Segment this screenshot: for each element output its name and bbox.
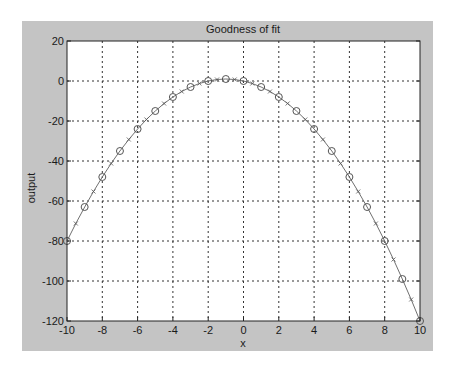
x-tick-label: 2 xyxy=(276,324,282,336)
chart-title: Goodness of fit xyxy=(206,23,280,35)
x-tick-label: 6 xyxy=(346,324,352,336)
y-tick-label: 0 xyxy=(58,75,64,87)
y-axis-label: output xyxy=(25,173,37,204)
y-tick-label: -20 xyxy=(48,115,64,127)
y-tick-label: -120 xyxy=(42,315,64,327)
x-tick-label: -8 xyxy=(97,324,107,336)
y-tick-label: -80 xyxy=(48,235,64,247)
x-tick-label: 10 xyxy=(414,324,426,336)
x-tick-label: 8 xyxy=(382,324,388,336)
x-tick-label: -4 xyxy=(168,324,178,336)
plot-canvas: Goodness of fit x output -10-8-6-4-20246… xyxy=(0,0,451,374)
x-tick-label: -2 xyxy=(203,324,213,336)
y-tick-label: -60 xyxy=(48,195,64,207)
x-tick-label: 4 xyxy=(311,324,317,336)
y-tick-label: -40 xyxy=(48,155,64,167)
y-tick-label: 20 xyxy=(52,35,64,47)
y-tick-label: -100 xyxy=(42,275,64,287)
x-tick-label: -6 xyxy=(133,324,143,336)
x-tick-label: 0 xyxy=(240,324,246,336)
x-axis-label: x xyxy=(240,337,246,349)
